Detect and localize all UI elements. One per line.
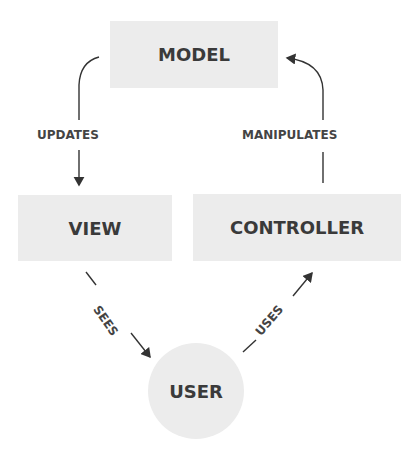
updates-arrow-top [79,57,99,120]
controller-node: CONTROLLER [193,194,401,261]
manipulates-arrow-top [287,58,323,120]
model-node: MODEL [110,21,278,88]
controller-label: CONTROLLER [230,217,364,238]
user-node: USER [148,343,244,439]
uses-arrow-start [243,340,256,352]
sees-arrow-end [131,333,150,357]
view-label: VIEW [69,218,122,239]
user-label: USER [169,381,223,402]
manipulates-label: MANIPULATES [242,128,337,142]
model-label: MODEL [158,44,230,65]
sees-arrow-start [86,272,96,285]
uses-arrow-end [293,273,312,296]
view-node: VIEW [18,195,172,261]
updates-label: UPDATES [37,128,99,142]
